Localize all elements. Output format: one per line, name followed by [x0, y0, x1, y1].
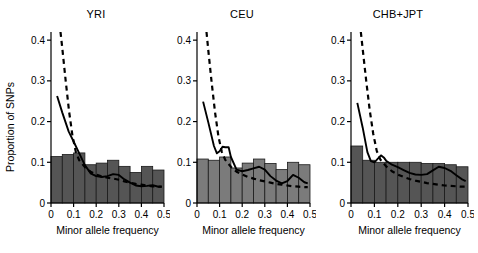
x-tick-label: 0.4	[438, 209, 452, 220]
y-tick-label: 0	[39, 198, 45, 209]
y-tick-label: 0.2	[177, 116, 191, 127]
y-tick-label: 0.2	[331, 116, 345, 127]
bar	[208, 160, 219, 203]
figure-root: Proportion of SNPs YRI 00.10.20.30.400.1…	[0, 0, 478, 253]
bar	[363, 160, 375, 203]
x-axis-title: Minor allele frequency	[358, 224, 461, 236]
bar	[410, 162, 422, 203]
x-tick-label: 0.2	[391, 209, 405, 220]
x-tick-label: 0	[194, 209, 200, 220]
bar	[276, 170, 287, 203]
bar	[62, 155, 73, 203]
plot-ceu: 00.10.20.30.400.10.20.30.40.5Minor allel…	[168, 0, 316, 253]
bar	[287, 162, 298, 203]
bar	[119, 166, 130, 203]
y-tick-label: 0.3	[177, 75, 191, 86]
y-tick-label: 0.1	[177, 157, 191, 168]
bar	[374, 162, 386, 203]
y-tick-label: 0.1	[31, 157, 45, 168]
y-tick-label: 0.3	[31, 75, 45, 86]
panel-ceu: CEU 00.10.20.30.400.10.20.30.40.5Minor a…	[168, 0, 316, 253]
panel-yri: YRI 00.10.20.30.400.10.20.30.40.5Minor a…	[22, 0, 170, 253]
x-tick-label: 0.1	[67, 209, 81, 220]
bar	[299, 165, 310, 203]
x-tick-label: 0.3	[112, 209, 126, 220]
y-axis-label: Proportion of SNPs	[0, 0, 21, 253]
y-tick-label: 0.4	[331, 35, 345, 46]
plot-chbjpt: 00.10.20.30.400.10.20.30.40.5Minor allel…	[322, 0, 474, 253]
x-tick-label: 0.3	[414, 209, 428, 220]
bar	[108, 160, 119, 203]
x-tick-label: 0.1	[213, 209, 227, 220]
y-tick-label: 0	[185, 198, 191, 209]
bar	[351, 146, 363, 203]
bar	[386, 162, 398, 203]
x-tick-label: 0.2	[89, 209, 103, 220]
y-axis-label-text: Proportion of SNPs	[4, 82, 16, 172]
x-tick-label: 0.5	[303, 209, 316, 220]
bar	[130, 172, 141, 203]
x-axis-title: Minor allele frequency	[56, 224, 159, 236]
y-tick-label: 0	[339, 198, 345, 209]
y-tick-label: 0.1	[331, 157, 345, 168]
x-axis-title: Minor allele frequency	[202, 224, 305, 236]
bar	[231, 168, 242, 203]
y-tick-label: 0.3	[331, 75, 345, 86]
panel-chbjpt: CHB+JPT 00.10.20.30.400.10.20.30.40.5Min…	[322, 0, 474, 253]
bars	[197, 157, 310, 203]
x-tick-label: 0.5	[461, 209, 474, 220]
plot-yri: 00.10.20.30.400.10.20.30.40.5Minor allel…	[22, 0, 170, 253]
y-tick-label: 0.2	[31, 116, 45, 127]
x-tick-label: 0.4	[134, 209, 148, 220]
y-tick-label: 0.4	[31, 35, 45, 46]
y-tick-label: 0.4	[177, 35, 191, 46]
x-tick-label: 0.3	[258, 209, 272, 220]
bar	[456, 167, 468, 203]
x-tick-label: 0.1	[367, 209, 381, 220]
x-tick-label: 0	[348, 209, 354, 220]
x-tick-label: 0.4	[280, 209, 294, 220]
bar	[96, 163, 107, 203]
bar	[51, 157, 62, 203]
x-tick-label: 0.2	[235, 209, 249, 220]
bar	[197, 159, 208, 203]
x-tick-label: 0	[48, 209, 54, 220]
